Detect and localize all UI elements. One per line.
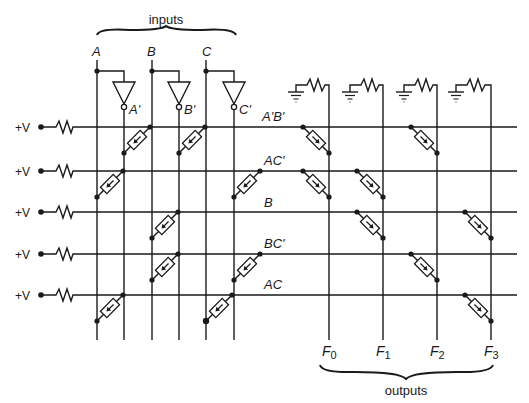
- term-label-5: AC: [263, 277, 283, 292]
- output-label-f3: F3: [484, 343, 499, 361]
- supply-label-2: +V: [15, 165, 30, 179]
- inputs-brace: [97, 26, 236, 35]
- complement-label-c: C': [239, 102, 251, 117]
- inverter-c-icon: [223, 82, 245, 104]
- product-rows: [38, 121, 517, 301]
- output-f1: [342, 79, 383, 340]
- output-label-f0: F0: [322, 343, 337, 361]
- supply-label-5: +V: [15, 289, 30, 303]
- pla-diagram: inputs A B C A' B' C': [0, 0, 529, 403]
- output-label-f2: F2: [430, 343, 445, 361]
- input-label-a: A: [91, 44, 101, 59]
- supply-label-1: +V: [15, 121, 30, 135]
- supply-label-4: +V: [15, 248, 30, 262]
- supply-label-3: +V: [15, 206, 30, 220]
- term-label-1: A'B': [261, 109, 285, 124]
- term-label-3: B: [264, 195, 273, 210]
- inverter-a-icon: [113, 82, 135, 104]
- output-lines: [288, 79, 491, 340]
- output-f0: [288, 79, 329, 340]
- inputs-label: inputs: [149, 12, 184, 27]
- output-f2: [396, 79, 437, 340]
- complement-label-a: A': [128, 102, 141, 117]
- term-label-4: BC': [264, 236, 285, 251]
- output-label-f1: F1: [376, 343, 391, 361]
- input-label-c: C: [202, 44, 212, 59]
- inverter-b-icon: [168, 82, 190, 104]
- input-label-b: B: [147, 44, 156, 59]
- outputs-label: outputs: [385, 383, 428, 398]
- term-label-2: AC': [263, 153, 285, 168]
- outputs-brace: [320, 365, 493, 379]
- complement-label-b: B': [184, 102, 196, 117]
- row-3: [38, 206, 517, 218]
- output-f3: [448, 79, 491, 340]
